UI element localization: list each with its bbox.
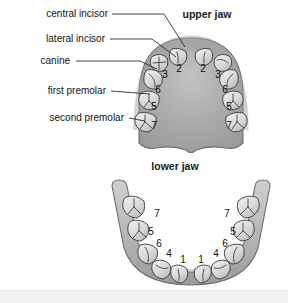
upper-number-3-left: 3 bbox=[162, 69, 168, 80]
lower-number-4-left: 4 bbox=[166, 248, 172, 259]
upper-number-6-left: 6 bbox=[155, 84, 161, 95]
lower-number-1-left: 1 bbox=[180, 254, 186, 265]
lower-number-7-left: 7 bbox=[154, 208, 160, 219]
footer-band bbox=[0, 290, 288, 303]
lower-number-6-right: 6 bbox=[222, 238, 228, 249]
upper-number-2-left: 2 bbox=[176, 63, 182, 74]
lower-number-4-right: 4 bbox=[213, 248, 219, 259]
upper-number-2-right: 2 bbox=[200, 63, 206, 74]
part-labels-group: central incisor lateral incisor canine f… bbox=[41, 8, 125, 123]
dental-diagram-svg: 2 2 3 3 6 6 5 5 7 7 upper jaw central in… bbox=[0, 0, 288, 303]
upper-number-5-left: 5 bbox=[151, 101, 157, 112]
upper-number-5-right: 5 bbox=[226, 101, 232, 112]
upper-number-6-right: 6 bbox=[222, 84, 228, 95]
lower-jaw-group: lower jaw bbox=[112, 160, 270, 285]
label-first-premolar: first premolar bbox=[48, 85, 107, 96]
lower-number-5-right: 5 bbox=[230, 226, 236, 237]
lower-jaw-numbers: 7 7 5 5 6 6 4 4 1 1 bbox=[148, 208, 236, 265]
lower-number-6-left: 6 bbox=[156, 238, 162, 249]
upper-number-7-left: 7 bbox=[151, 120, 157, 131]
lower-number-1-right: 1 bbox=[198, 254, 204, 265]
upper-number-3-right: 3 bbox=[215, 69, 221, 80]
dental-arch-diagram: 2 2 3 3 6 6 5 5 7 7 upper jaw central in… bbox=[0, 0, 288, 303]
upper-jaw-title: upper jaw bbox=[182, 8, 232, 20]
label-lateral-incisor: lateral incisor bbox=[46, 33, 106, 44]
lower-number-7-right: 7 bbox=[224, 208, 230, 219]
label-central-incisor: central incisor bbox=[46, 8, 108, 19]
label-second-premolar: second premolar bbox=[50, 112, 125, 123]
lower-jaw-title: lower jaw bbox=[151, 160, 199, 172]
upper-jaw-group: 2 2 3 3 6 6 5 5 7 7 upper jaw bbox=[135, 8, 247, 153]
label-canine: canine bbox=[41, 55, 71, 66]
upper-number-7-right: 7 bbox=[226, 120, 232, 131]
lower-number-5-left: 5 bbox=[148, 226, 154, 237]
